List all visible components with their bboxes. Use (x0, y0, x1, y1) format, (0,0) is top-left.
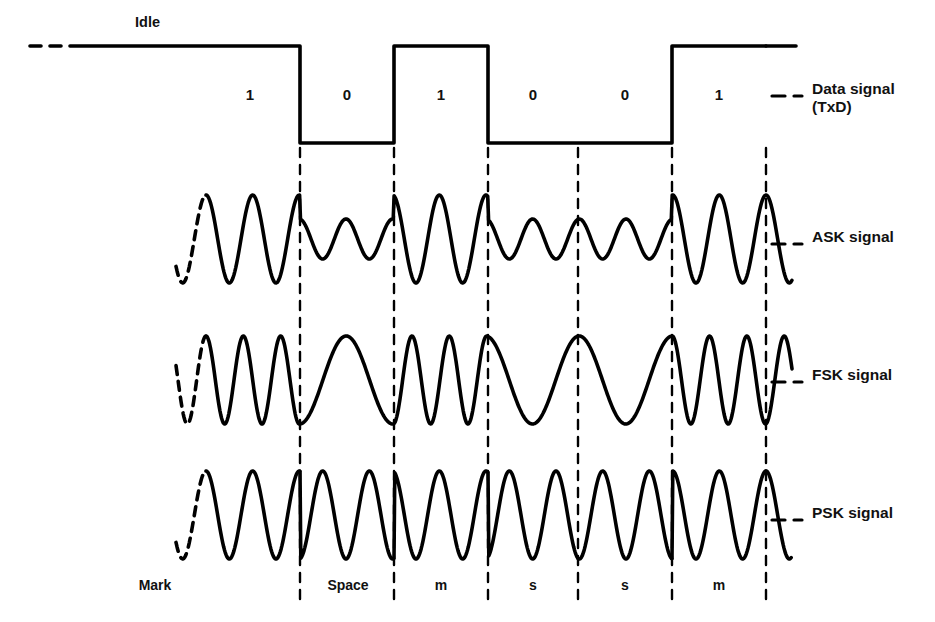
bit-label-0: 1 (215, 86, 285, 103)
bit-label-4: 0 (590, 86, 660, 103)
bottom-label-0: Mark (115, 577, 195, 593)
idle-label: Idle (135, 14, 160, 30)
bottom-label-4: s (585, 577, 665, 593)
bit-label-3: 0 (498, 86, 568, 103)
bottom-label-1: Space (308, 577, 388, 593)
bottom-label-3: s (493, 577, 573, 593)
psk-signal-label: PSK signal (812, 504, 893, 522)
bit-label-1: 0 (312, 86, 382, 103)
fsk-signal-label: FSK signal (812, 366, 892, 384)
bit-label-2: 1 (406, 86, 476, 103)
bottom-label-5: m (679, 577, 759, 593)
ask-signal-label: ASK signal (812, 228, 894, 246)
bottom-label-2: m (401, 577, 481, 593)
data-signal-label: Data signal (TxD) (812, 80, 895, 116)
bit-label-5: 1 (684, 86, 754, 103)
modulation-diagram: Idle 1 0 1 0 0 1 Data signal (TxD) ASK s… (0, 0, 935, 622)
